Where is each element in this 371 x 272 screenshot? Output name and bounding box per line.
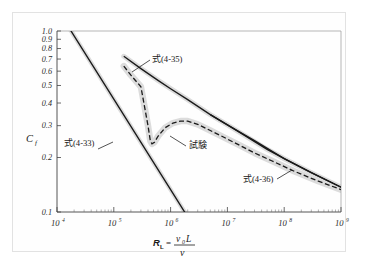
svg-text:10: 10 bbox=[51, 218, 60, 228]
y-tick-label: 0.5 bbox=[42, 81, 52, 90]
x-tick-label: 108 bbox=[278, 217, 292, 228]
annotation-eq-4-35: 式(4-35) bbox=[152, 53, 183, 64]
x-tick-label: 105 bbox=[108, 217, 122, 228]
svg-text:7: 7 bbox=[232, 217, 235, 223]
x-axis-numerator-v: v bbox=[176, 234, 181, 244]
svg-text:9: 9 bbox=[346, 217, 349, 223]
chart-svg: 1.00.90.80.70.60.50.40.30.20.1 104105106… bbox=[0, 0, 371, 272]
y-axis-ticks bbox=[57, 31, 61, 212]
series-laminar-eq-4-33 bbox=[57, 9, 185, 213]
x-tick-label: 106 bbox=[165, 217, 179, 228]
y-axis-subscript: f bbox=[35, 139, 38, 147]
y-tick-label: 0.8 bbox=[42, 44, 52, 53]
leader-eq-4-36 bbox=[277, 170, 292, 179]
y-axis-title: C f bbox=[26, 133, 38, 147]
x-tick-label: 104 bbox=[51, 217, 65, 228]
series-group bbox=[57, 9, 341, 213]
x-tick-label: 109 bbox=[335, 217, 349, 228]
y-tick-label: 0.6 bbox=[42, 67, 53, 76]
figure-container: 1.00.90.80.70.60.50.40.30.20.1 104105106… bbox=[0, 0, 371, 272]
svg-text:10: 10 bbox=[278, 218, 287, 228]
annotation-cjk-text: 式 bbox=[64, 137, 73, 148]
annotation-cjk-text: 式 bbox=[243, 173, 252, 184]
svg-text:6: 6 bbox=[176, 217, 179, 223]
leader-experiment bbox=[170, 136, 186, 146]
annotation-cjk-text: 式 bbox=[152, 53, 161, 64]
annotation-cjk-text: 試験 bbox=[189, 139, 207, 150]
svg-text:10: 10 bbox=[335, 218, 344, 228]
y-tick-label: 0.3 bbox=[42, 121, 52, 130]
x-axis-numerator-v-sub: 0 bbox=[182, 239, 185, 245]
svg-text:5: 5 bbox=[119, 217, 122, 223]
annotation-eq-number: (4-33) bbox=[73, 138, 95, 148]
annotation-eq-4-33: 式(4-33) bbox=[64, 137, 95, 148]
x-tick-label: 107 bbox=[221, 217, 235, 228]
x-axis-tick-labels: 104105106107108109 bbox=[51, 217, 349, 228]
svg-text:10: 10 bbox=[221, 218, 230, 228]
svg-text:8: 8 bbox=[289, 217, 292, 223]
annotation-eq-number: (4-36) bbox=[252, 174, 274, 184]
svg-text:4: 4 bbox=[62, 217, 65, 223]
y-tick-label: 0.4 bbox=[42, 99, 52, 108]
x-axis-numerator-L: L bbox=[185, 234, 191, 244]
data-shading-band bbox=[57, 9, 341, 213]
svg-text:10: 10 bbox=[108, 218, 117, 228]
y-tick-label: 0.1 bbox=[42, 208, 52, 217]
chart-plot-area: 1.00.90.80.70.60.50.40.30.20.1 104105106… bbox=[0, 0, 371, 272]
y-tick-label: 0.2 bbox=[42, 153, 52, 162]
annotation-experiment: 試験 bbox=[189, 139, 207, 150]
x-axis-symbol: R bbox=[153, 237, 160, 248]
x-axis-denominator-nu: ν bbox=[180, 247, 185, 258]
y-tick-label: 0.7 bbox=[42, 55, 53, 64]
leader-eq-4-33 bbox=[98, 142, 113, 149]
y-tick-label: 0.9 bbox=[42, 35, 52, 44]
x-axis-equals: = bbox=[166, 238, 171, 248]
annotation-eq-4-36: 式(4-36) bbox=[243, 173, 274, 184]
x-axis-title: R L = v 0 L ν bbox=[153, 234, 195, 258]
svg-text:10: 10 bbox=[165, 218, 174, 228]
x-axis-ticks bbox=[57, 207, 341, 212]
annotation-eq-number: (4-35) bbox=[161, 54, 183, 64]
x-axis-subscript: L bbox=[160, 243, 164, 250]
y-axis-tick-labels: 1.00.90.80.70.60.50.40.30.20.1 bbox=[42, 27, 53, 217]
y-axis-symbol: C bbox=[26, 133, 34, 144]
